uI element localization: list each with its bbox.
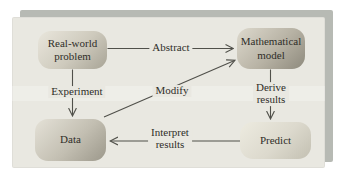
edge-label-derive-results: Derive results [253, 82, 289, 106]
edge-label-abstract: Abstract [149, 42, 192, 54]
modeling-diagram: Real-world problem Mathematical model Da… [0, 0, 348, 179]
edge-label-modify: Modify [153, 85, 192, 97]
edge-label-interpret-results: Interpret results [148, 127, 192, 151]
edge-label-experiment: Experiment [48, 86, 105, 98]
